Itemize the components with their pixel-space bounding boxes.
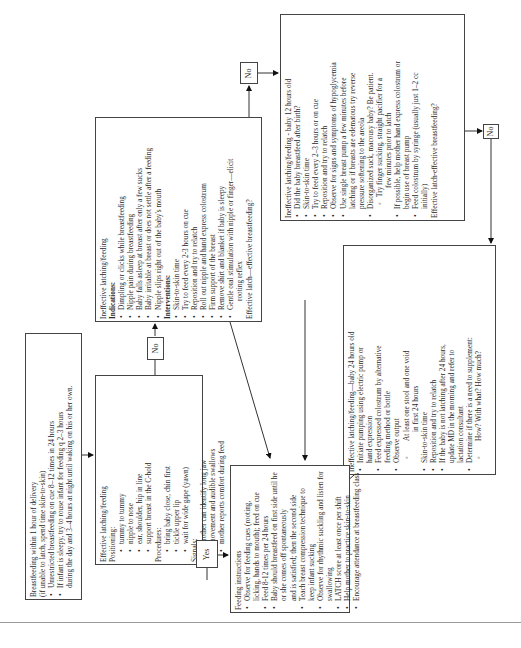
positioning-item: ear, shoulder, hip in line	[135, 380, 144, 544]
intervention-item: Reposition and try to relatch	[190, 122, 199, 310]
12h-item: Did the baby breastfeed after birth?	[293, 19, 302, 209]
box-effective-latching: Effective latching/feeding Positioning: …	[95, 375, 203, 565]
24h-subitem-cont: in first 24 hours	[411, 250, 420, 472]
instructions-item: Encourage attendance at breastfeeding cl…	[352, 470, 361, 601]
instructions-item-cont: swallowing	[325, 470, 334, 610]
instructions-item: Teach breast compression technique to	[298, 470, 307, 601]
12h-item-cont: pressure softening to the areola	[357, 19, 366, 218]
24h-item-cont: update MD in the morning and refer to	[447, 250, 456, 472]
interventions-label: Interventions:	[163, 275, 172, 319]
positioning-label: Positioning:	[108, 380, 117, 562]
12h-title: Ineffective latching/feeding - baby 12 h…	[284, 19, 293, 218]
indication-item: Baby irritable at breast or does not set…	[144, 122, 153, 310]
instructions-title: Feeding instructions	[234, 470, 243, 610]
effective-title: Effective latching/feeding	[99, 380, 108, 562]
box-12-hours-old: Ineffective latching/feeding - baby 12 h…	[280, 14, 465, 221]
intervention-item: Roll out nipple and hand express colostr…	[199, 122, 208, 310]
instructions-item-cont: or she comes off spontaneously	[279, 470, 288, 610]
12h-item-cont: initially)	[420, 19, 429, 218]
intervention-item: Remove shirt and blanket if baby is slee…	[217, 122, 226, 310]
decision-label: No	[151, 344, 160, 354]
procedures-item: wait for wide gape (yawn)	[181, 380, 190, 544]
intervention-item: Try to feed every 2-3 hours on cue	[181, 122, 190, 310]
page-divider	[0, 622, 521, 623]
start-subtitle: (if unable to latch, spend time skin-to-…	[38, 338, 47, 597]
instructions-item: LATCH score at least once per shift	[334, 470, 343, 601]
12h-item: Reposition and try to relatch	[320, 19, 329, 209]
12h-item: Skin-to-skin time	[302, 19, 311, 209]
intervention-item: Gentle oral stimulation with nipple or f…	[226, 122, 235, 310]
12h-item: Use single breast pump a few minutes bef…	[339, 19, 348, 209]
box-24-hours-old: Ineffective latching/feeding—baby 24 hou…	[343, 245, 496, 475]
decision-label: Yes	[202, 548, 211, 560]
24h-item: Feed expressed colostrum by alternative	[374, 250, 383, 463]
24h-item: Reposition and try to relatch	[429, 250, 438, 463]
decision-no-2: No	[483, 124, 499, 139]
procedures-item: bring baby close, chin first	[163, 380, 172, 544]
start-item: If infant is sleepy, try to rouse infant…	[56, 338, 65, 588]
instructions-item-cont: keep infant sucking	[307, 470, 316, 610]
procedures-label: Procedures:	[154, 380, 163, 562]
24h-item: Observe output	[392, 250, 401, 463]
12h-item: Disorganized suck, macousy baby? Be pati…	[366, 19, 375, 209]
12h-item-cont: latching or if breasts are edematous try…	[348, 19, 357, 218]
box-feeding-instructions: Feeding instructions Observe for feeding…	[230, 465, 350, 613]
indication-item: Dimpling or clicks while breastfeeding	[117, 122, 126, 310]
24h-item-cont: lactation consultant	[456, 250, 465, 472]
instructions-item: Observe for rhythmic suckling and listen…	[316, 470, 325, 601]
24h-item: Initiate pumping using electric pump or	[356, 250, 365, 463]
start-item: Unrestricted breastfeeding on cue 8–12 t…	[47, 338, 56, 588]
instructions-item-cont: and is satisfied; then the second side	[289, 470, 298, 610]
start-title: Breastfeeding within 1 hour of delivery	[29, 338, 38, 597]
decision-yes: Yes	[196, 540, 218, 568]
12h-subitem-cont: few minutes prior to latch	[384, 19, 393, 218]
12h-item: Try to feed every 2–3 hours or on cue	[311, 19, 320, 209]
12h-subitem: Try finger sucking, straight pacifier fo…	[375, 19, 384, 209]
procedures-item: tickle upper lip	[172, 380, 181, 544]
positioning-item: nipple to nose	[126, 380, 135, 544]
intervention-item: Skin-to-skin time	[172, 122, 181, 310]
positioning-item: support breast in the C-hold	[144, 380, 153, 544]
start-item-cont: during the day and 3–4 hours at night un…	[65, 338, 74, 597]
12h-item: Observe for signs and symptoms of hypogl…	[329, 19, 338, 209]
24h-subitem: How? With what? How much?	[474, 250, 483, 463]
24h-item: If the baby is not latching after 24 hou…	[438, 250, 447, 463]
signals-label: Signals:	[190, 380, 199, 562]
indication-item: Nipple slips right out of the baby's mou…	[154, 122, 163, 310]
instructions-item: Feed 8-12 times per 24 hours	[261, 470, 270, 601]
signals-item-cont: movement and audible swallows	[208, 380, 217, 562]
24h-subitem: At least one stool and one void	[402, 250, 411, 463]
instructions-item-cont: licking, hands to mouth); feed on cue	[252, 470, 261, 610]
24h-item-cont: hand expression	[365, 250, 374, 472]
ineffective-question: Effective latch—effective breastfeeding?	[245, 122, 254, 319]
24h-item-cont: feeding method or bottle	[383, 250, 392, 472]
signals-item: mother reports comfort during feed	[217, 380, 226, 544]
24h-item: Determine if there is a need to suppleme…	[465, 250, 474, 463]
ineffective-title: Ineffective latching/feeding	[99, 122, 108, 319]
intervention-item-cont: rooting reflex	[235, 122, 244, 319]
indications-label: Indications:	[108, 282, 117, 319]
indication-item: Nipple pain during breastfeeding	[126, 122, 135, 310]
24h-title: Ineffective latching/feeding—baby 24 hou…	[347, 250, 356, 472]
decision-label: No	[245, 68, 254, 78]
12h-question: Effective latch-effective breastfeeding?	[430, 19, 439, 218]
intervention-item: Firm support of the breast	[208, 122, 217, 310]
decision-no-middle: No	[147, 337, 164, 360]
indication-item: Baby falls asleep at breast after only a…	[135, 122, 144, 310]
box-breastfeeding-start: Breastfeeding within 1 hour of delivery …	[25, 333, 82, 600]
signals-item: mother can identify long jaw	[199, 380, 208, 544]
positioning-item: tummy to tummy	[117, 380, 126, 544]
decision-no-1: No	[240, 62, 258, 84]
12h-item: Feed colostrum by syringe (usually just …	[411, 19, 420, 209]
12h-item-cont: begin use of breast pump	[402, 19, 411, 218]
box-ineffective-latching: Ineffective latching/feeding Indications…	[95, 117, 262, 322]
instructions-item: Help mother to practice skin-to-skin	[343, 470, 352, 601]
instructions-item: Baby should breastfeed on first side unt…	[270, 470, 279, 601]
24h-item: Skin-to-skin time	[420, 250, 429, 463]
instructions-item: Observe for feeding cues (rooting,	[243, 470, 252, 601]
12h-item: If possible, help mother hand express co…	[393, 19, 402, 209]
decision-label: No	[487, 127, 496, 137]
